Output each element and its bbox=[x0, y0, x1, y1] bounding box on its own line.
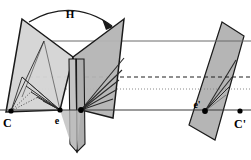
label-e: e bbox=[55, 115, 60, 126]
label-e-prime: e' bbox=[193, 99, 200, 110]
label-H: H bbox=[66, 8, 75, 20]
point-C-prime bbox=[237, 108, 242, 113]
point-e bbox=[57, 107, 62, 112]
label-C-prime: C' bbox=[234, 117, 246, 131]
label-C: C bbox=[3, 116, 12, 130]
point-e-prime bbox=[202, 108, 208, 114]
point-x-image bbox=[78, 107, 84, 113]
figure-container: H C e e' C' bbox=[0, 0, 251, 160]
point-C bbox=[8, 108, 13, 113]
geometry-diagram: H C e e' C' bbox=[0, 0, 251, 160]
